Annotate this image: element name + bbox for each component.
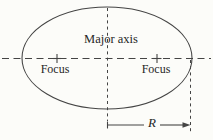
right-focus-label: Focus xyxy=(142,63,171,76)
radius-label: R xyxy=(148,116,156,130)
r-arrowhead-icon xyxy=(183,122,191,128)
diagram-canvas xyxy=(0,0,213,140)
ellipse-diagram: Major axis Focus Focus R xyxy=(0,0,213,140)
major-axis-label: Major axis xyxy=(84,33,138,47)
left-focus-label: Focus xyxy=(41,63,70,76)
